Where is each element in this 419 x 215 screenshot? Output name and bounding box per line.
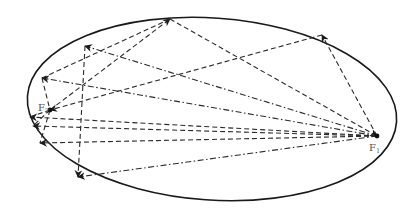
focus-f1-label: F1 xyxy=(369,142,380,155)
focus-f1-letter: F xyxy=(369,142,376,153)
ray-segment xyxy=(322,35,377,136)
ray-segment xyxy=(40,136,377,143)
focus-f2-subscript: 2 xyxy=(45,107,49,115)
focus-f1-subscript: 1 xyxy=(376,147,380,155)
focus-f1-point xyxy=(375,134,380,139)
ray-segment xyxy=(78,136,377,177)
ellipse-curve xyxy=(21,5,403,212)
ray-segment xyxy=(78,46,85,177)
ray-segment xyxy=(50,35,322,110)
ellipse-reflection-diagram: F1 F2 xyxy=(0,0,419,215)
ray-segment xyxy=(50,19,170,110)
focus-f2-letter: F xyxy=(38,102,45,113)
